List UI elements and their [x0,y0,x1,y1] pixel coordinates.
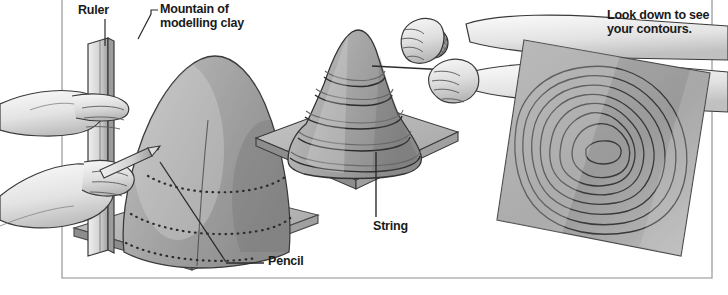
label-ruler: Ruler [78,4,109,18]
label-string: String [373,220,408,234]
label-pencil: Pencil [268,255,304,269]
label-mountain-of-modelling-clay: Mountain of modelling clay [160,3,244,30]
label-look-down-to-see-your-contours: Look down to see your contours. [607,9,709,36]
clay-mountain-1 [123,56,304,280]
illustration-artwork [0,0,728,295]
leader-mountain-elbow [138,10,158,39]
ruler [88,38,114,256]
clay-mountain-stepped [288,30,421,178]
panel-map [497,40,710,256]
illustration-figure: Ruler Mountain of modelling clay Look do… [0,0,728,295]
panel-draw [0,38,318,280]
